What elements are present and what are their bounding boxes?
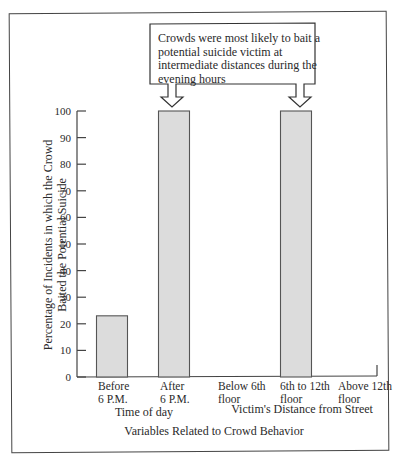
y-tick-label: 40	[60, 265, 72, 277]
category-label: 6th to 12th	[280, 380, 330, 392]
bar	[281, 111, 312, 377]
y-tick-label: 50	[60, 238, 72, 250]
callout-text-line: intermediate distances during the	[158, 58, 317, 72]
category-label: 6 P.M.	[98, 393, 128, 405]
callout-text-line: evening hours	[158, 72, 226, 86]
y-tick-label: 60	[60, 211, 72, 223]
y-tick-label: 100	[55, 105, 72, 117]
bar-chart: Percentage of Incidents in which the Cro…	[0, 0, 398, 456]
callout-text-line: Crowds were most likely to bait a	[158, 31, 321, 45]
category-label: 6 P.M.	[160, 393, 190, 405]
category-label: After	[160, 380, 184, 392]
bar	[159, 111, 190, 377]
bar	[97, 316, 128, 377]
y-tick-label: 80	[60, 158, 72, 170]
group-label-time-of-day: Time of day	[115, 405, 173, 419]
y-tick-label: 10	[60, 344, 72, 356]
y-tick-label: 0	[66, 371, 72, 383]
y-tick-label: 30	[60, 291, 72, 303]
bars	[97, 111, 312, 377]
category-label: Below 6th	[218, 380, 266, 392]
category-label: Before	[98, 380, 129, 392]
y-tick-label: 70	[60, 185, 72, 197]
callout-annotation: Crowds were most likely to bait apotenti…	[150, 23, 321, 107]
category-label: Above 12th	[338, 380, 392, 392]
y-tick-label: 20	[60, 318, 72, 330]
y-tick-label: 90	[60, 132, 72, 144]
x-axis-label: Variables Related to Crowd Behavior	[124, 424, 303, 438]
callout-text-line: potential suicide victim at	[158, 45, 283, 59]
y-axis-label-line-1: Percentage of Incidents in which the Cro…	[41, 140, 55, 351]
group-label-distance: Victim's Distance from Street	[231, 402, 373, 416]
